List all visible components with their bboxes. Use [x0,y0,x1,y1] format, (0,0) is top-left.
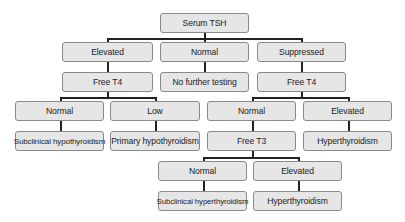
node-t4-normal-left: Normal [15,101,104,121]
connector [203,157,299,159]
connector [107,62,109,72]
connector [60,97,156,99]
connector [203,181,205,191]
node-t4-elevated: Elevated [303,101,392,121]
node-no-further-testing: No further testing [160,72,249,92]
node-hyperthyroidism-right: Hyperthyroidism [303,131,392,151]
node-subclinical-hyperthyroidism: Subclinical hyperthyroidism [158,191,247,211]
node-tsh-normal: Normal [160,42,249,62]
node-tsh-suppressed: Suppressed [257,42,346,62]
connector [204,62,206,72]
node-primary-hypothyroidism: Primary hypothyroidism [110,131,200,151]
node-t3-elevated: Elevated [253,161,342,181]
connector [252,121,254,131]
node-tsh-elevated: Elevated [62,42,153,62]
node-free-t4-left: Free T4 [62,72,153,92]
connector [301,62,303,72]
connector [155,121,157,131]
node-subclinical-hypothyroidism: Subclinical hypothyroidism [15,131,104,151]
node-t4-low: Low [110,101,200,121]
connector [60,121,62,131]
connector [252,97,349,99]
node-free-t4-right: Free T4 [257,72,346,92]
node-t3-normal: Normal [158,161,247,181]
thyroid-flowchart: Serum TSH Elevated Normal Suppressed Fre… [0,0,405,222]
node-t4-normal-right: Normal [207,101,296,121]
node-free-t3: Free T3 [207,131,296,151]
node-hyperthyroidism-bottom: Hyperthyroidism [253,191,342,211]
node-serum-tsh: Serum TSH [160,13,249,33]
connector [348,121,350,131]
connector [298,181,300,191]
